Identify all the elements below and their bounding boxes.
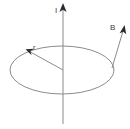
radius-label: r [33,44,36,51]
physics-diagram: I r B [0,0,130,129]
current-axis-label: I [55,6,57,15]
magnetic-field-vector-line [112,31,123,68]
diagram-canvas: I r B [0,0,130,129]
magnetic-field-label: B [110,23,115,32]
radius-vector-line [30,52,64,71]
